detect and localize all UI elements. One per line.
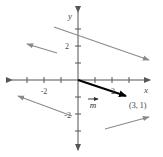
y-tick-label-pos2: 2 xyxy=(65,42,69,51)
x-tick-label-neg2: -2 xyxy=(41,87,48,96)
vector-m-arrow xyxy=(78,80,126,96)
x-axis-label: x xyxy=(143,85,148,95)
vector-label-group: m xyxy=(88,99,98,110)
vector-label: m xyxy=(90,100,97,110)
y-axis-label: y xyxy=(67,11,72,21)
y-tick-label-neg2: -2 xyxy=(64,111,71,120)
point-coordinate-label: (3, 1) xyxy=(129,101,147,110)
graph-svg: y x -2 2 2 -2 (3, 1) m xyxy=(0,0,163,157)
parallel-arrow-upper-left xyxy=(27,44,57,53)
x-tick-label-pos2: 2 xyxy=(111,87,115,96)
coordinate-graph-figure: y x -2 2 2 -2 (3, 1) m xyxy=(0,0,163,157)
parallel-arrow-lower-right xyxy=(105,117,149,129)
